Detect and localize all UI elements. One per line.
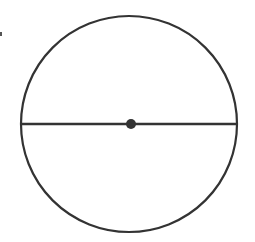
- edge-mark: [0, 32, 2, 36]
- center-point: [126, 119, 136, 129]
- circle-diagram: [0, 0, 255, 242]
